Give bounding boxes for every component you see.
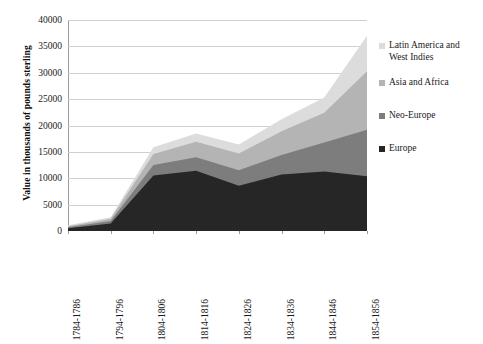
area-series-group bbox=[68, 20, 367, 231]
y-axis-tick-labels: 0500010000150002000025000300003500040000 bbox=[14, 0, 62, 303]
area-series bbox=[68, 171, 367, 231]
x-axis-tick-labels: 1784-17861794-17961804-18061814-18161824… bbox=[68, 231, 367, 303]
legend-swatch bbox=[379, 146, 385, 152]
x-tick-label: 1804-1806 bbox=[157, 299, 167, 344]
y-tick-label: 35000 bbox=[16, 41, 62, 51]
legend-label: Asia and Africa bbox=[389, 77, 449, 89]
y-tick-label: 10000 bbox=[16, 173, 62, 183]
y-tick-label: 25000 bbox=[16, 94, 62, 104]
x-tick-label: 1834-1836 bbox=[286, 299, 296, 344]
x-tick-label: 1844-1846 bbox=[328, 299, 338, 344]
legend-item: Europe bbox=[379, 143, 416, 155]
x-tick-label: 1784-1786 bbox=[72, 299, 82, 344]
legend-swatch bbox=[379, 80, 385, 86]
x-tick-mark bbox=[324, 231, 325, 234]
x-tick-label: 1814-1816 bbox=[200, 299, 210, 344]
x-tick-mark bbox=[239, 231, 240, 234]
x-tick-mark bbox=[111, 231, 112, 234]
legend-label: Europe bbox=[389, 143, 416, 155]
y-tick-label: 15000 bbox=[16, 147, 62, 157]
plot-area bbox=[68, 20, 367, 231]
x-tick-mark bbox=[282, 231, 283, 234]
y-tick-label: 40000 bbox=[16, 15, 62, 25]
y-tick-label: 30000 bbox=[16, 68, 62, 78]
legend-label: Neo-Europe bbox=[389, 110, 435, 122]
legend-item: Latin America and West Indies bbox=[379, 40, 460, 63]
legend-label: Latin America and West Indies bbox=[389, 40, 460, 63]
y-tick-label: 0 bbox=[16, 226, 62, 236]
y-tick-label: 20000 bbox=[16, 121, 62, 131]
x-tick-mark bbox=[68, 231, 69, 234]
y-tick-label: 5000 bbox=[16, 200, 62, 210]
legend-swatch bbox=[379, 43, 385, 49]
legend-item: Asia and Africa bbox=[379, 77, 449, 89]
x-tick-label: 1854-1856 bbox=[371, 299, 381, 344]
x-tick-mark bbox=[367, 231, 368, 234]
x-tick-mark bbox=[196, 231, 197, 234]
x-tick-mark bbox=[153, 231, 154, 234]
x-tick-label: 1824-1826 bbox=[243, 299, 253, 344]
legend-swatch bbox=[379, 113, 385, 119]
legend-item: Neo-Europe bbox=[379, 110, 435, 122]
x-tick-label: 1794-1796 bbox=[115, 299, 125, 344]
